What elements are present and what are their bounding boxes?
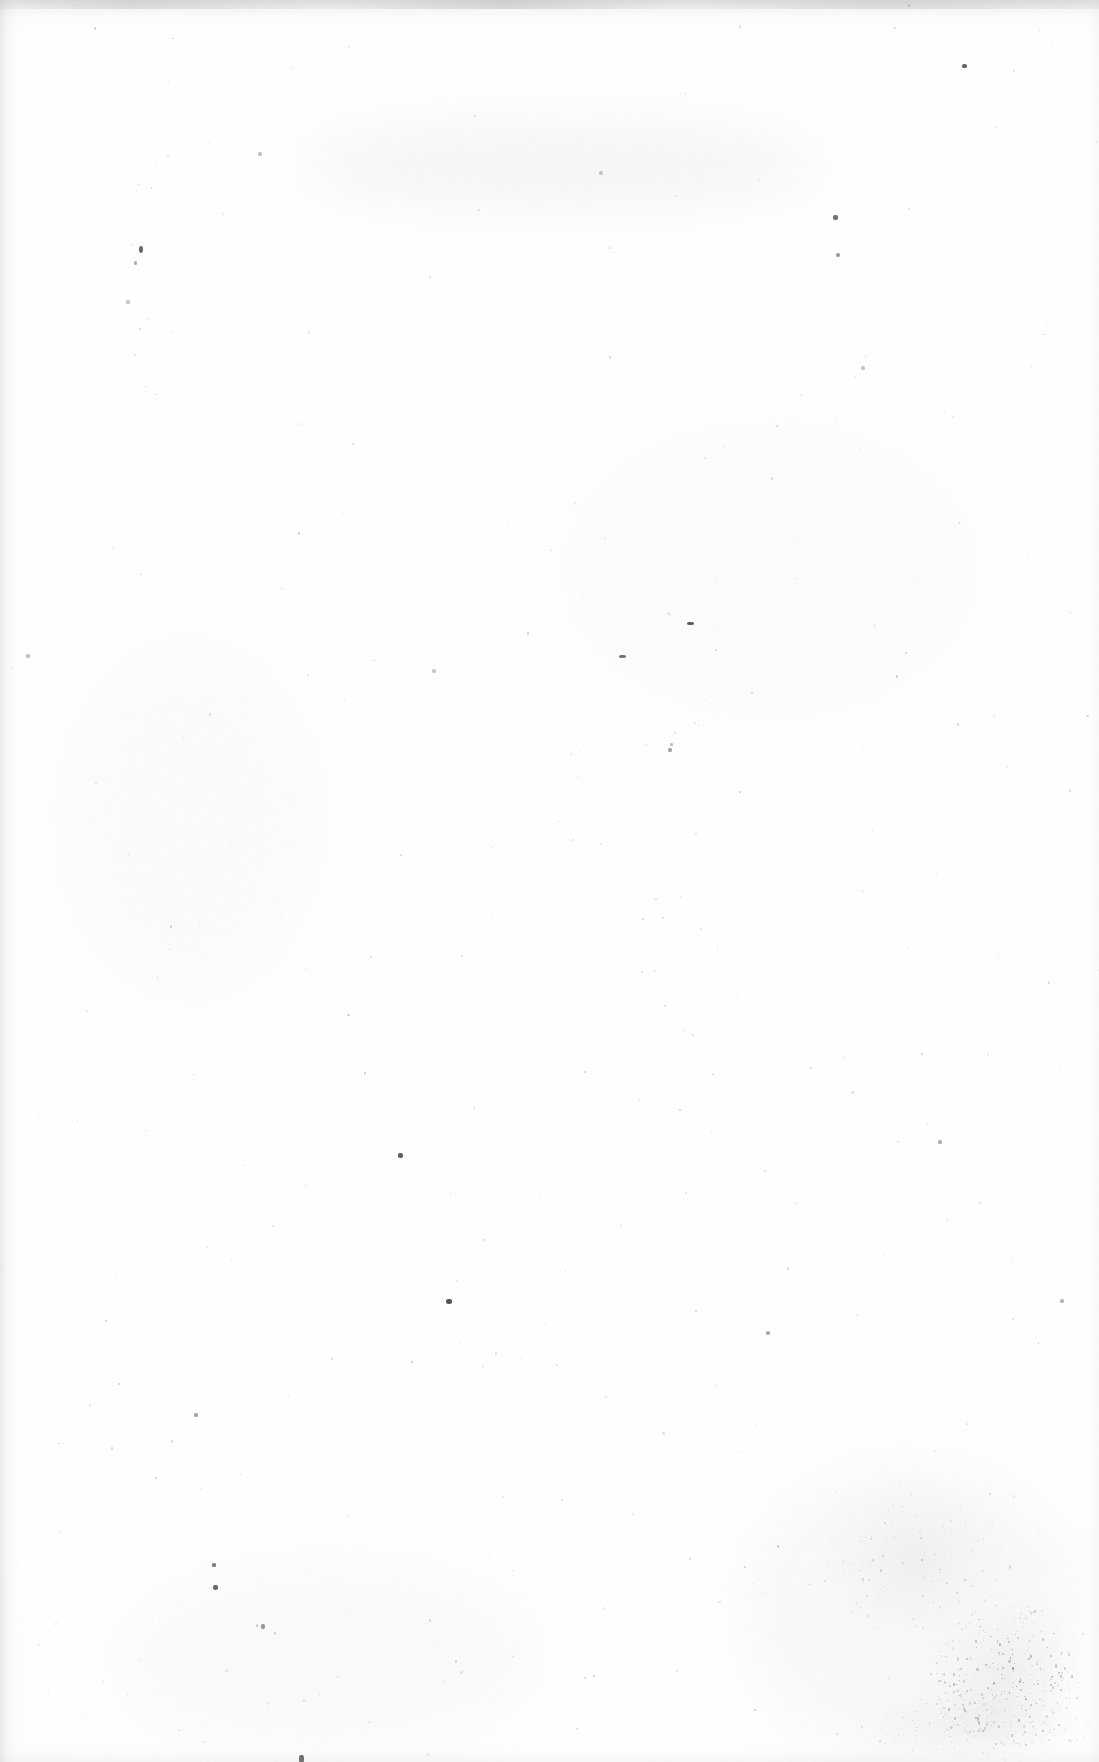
scanned-page: [0, 0, 1099, 1762]
paper-background: [0, 0, 1099, 1762]
